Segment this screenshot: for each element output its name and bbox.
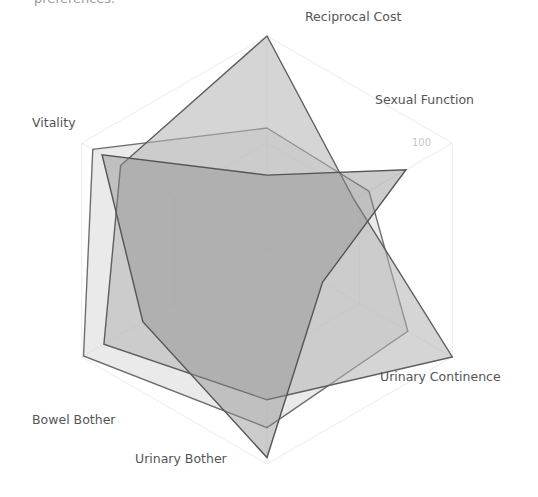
radar-chart: Reciprocal CostSexual FunctionUrinary Co… — [0, 0, 538, 497]
axis-label-sexual-function: Sexual Function — [375, 92, 474, 107]
axis-label-vitality: Vitality — [32, 115, 76, 130]
tick-label-max: 100 — [412, 137, 431, 148]
axis-label-reciprocal-cost: Reciprocal Cost — [305, 9, 401, 24]
axis-label-urinary-continence: Urinary Continence — [380, 369, 501, 384]
axis-label-bowel-bother: Bowel Bother — [32, 412, 116, 427]
axis-label-urinary-bother: Urinary Bother — [135, 451, 228, 466]
